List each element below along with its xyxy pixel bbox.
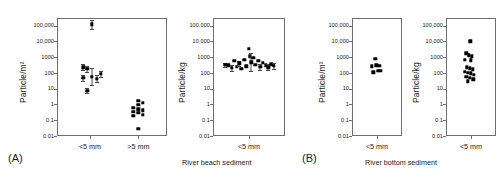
y-axis-tick-mark (443, 136, 446, 137)
y-axis-tick-mark (54, 26, 57, 27)
y-axis-tick-label: 0.01 (413, 133, 443, 139)
y-axis-tick-label: 0.01 (319, 133, 349, 139)
data-point (245, 65, 248, 68)
y-axis-tick-mark (349, 73, 352, 74)
data-point (141, 109, 144, 112)
error-bar-cap (90, 29, 94, 30)
data-point (233, 59, 236, 62)
y-axis-tick-label: 0.01 (24, 133, 54, 139)
y-axis-tick-mark (349, 26, 352, 27)
error-bar-cap (266, 70, 270, 71)
y-axis-tick-label: 1 (319, 101, 349, 107)
y-axis-tick-mark (443, 73, 446, 74)
y-axis-tick-mark (210, 26, 213, 27)
data-point (230, 66, 233, 69)
data-point (141, 101, 144, 104)
x-axis-category-label: <5 mm (65, 142, 115, 151)
y-axis-tick-mark (54, 89, 57, 90)
plot-frame (352, 18, 402, 136)
x-axis-tick-mark (138, 136, 139, 139)
y-axis-tick-mark (54, 120, 57, 121)
y-axis-tick-mark (443, 89, 446, 90)
caption-river-beach-sediment: River beach sediment (182, 158, 252, 167)
caption-river-bottom-sediment: River bottom sediment (365, 158, 437, 167)
y-axis-tick-label: 10 (180, 85, 210, 91)
data-point (247, 47, 250, 50)
y-axis-tick-mark (349, 89, 352, 90)
error-bar-cap (249, 71, 253, 72)
error-bar-cap (85, 93, 89, 94)
figure-root: Particle/m²100,00010,00010001001010.10.0… (0, 0, 499, 178)
y-axis-tick-label: 1 (180, 101, 210, 107)
y-axis-tick-label: 100,000 (319, 22, 349, 28)
y-axis-tick-mark (54, 136, 57, 137)
data-point (240, 67, 243, 70)
data-point (238, 62, 241, 65)
y-axis-tick-mark (54, 41, 57, 42)
plot-frame (57, 18, 167, 136)
y-axis-tick-mark (349, 57, 352, 58)
y-axis-tick-mark (210, 41, 213, 42)
data-point (242, 58, 245, 61)
error-bar-cap (81, 81, 85, 82)
y-axis-tick-mark (443, 41, 446, 42)
data-point (466, 79, 469, 82)
y-axis-tick-mark (210, 57, 213, 58)
y-axis-tick-label: 1 (413, 101, 443, 107)
x-axis-category-label: <5 mm (352, 142, 402, 151)
data-point (472, 77, 475, 80)
data-point (141, 113, 144, 116)
y-axis-tick-mark (210, 120, 213, 121)
y-axis-tick-mark (349, 104, 352, 105)
y-axis-tick-label: 10 (413, 85, 443, 91)
y-axis-tick-mark (54, 73, 57, 74)
y-axis-tick-label: 0.1 (319, 117, 349, 123)
panel-a-letter: (A) (8, 152, 23, 164)
y-axis-tick-label: 10 (24, 85, 54, 91)
y-axis-tick-label: 100,000 (413, 22, 443, 28)
data-point (90, 75, 93, 78)
data-point (254, 63, 257, 66)
data-point (259, 65, 262, 68)
y-axis-tick-label: 1000 (24, 54, 54, 60)
data-point (379, 69, 382, 72)
x-axis-tick-mark (471, 136, 472, 139)
y-axis-tick-label: 10,000 (180, 38, 210, 44)
y-axis-label: Particle/kg (177, 62, 187, 103)
x-axis-category-label: <5 mm (224, 142, 274, 151)
x-axis-tick-mark (377, 136, 378, 139)
data-point (378, 64, 381, 67)
data-point (137, 127, 140, 130)
y-axis-tick-label: 0.1 (413, 117, 443, 123)
panel-b-letter: (B) (302, 152, 317, 164)
data-point (249, 60, 252, 63)
data-point (131, 114, 134, 117)
data-point (131, 106, 134, 109)
data-point (82, 76, 85, 79)
y-axis-tick-mark (210, 104, 213, 105)
y-axis-label: Particle/m² (317, 61, 327, 103)
y-axis-tick-label: 1000 (319, 54, 349, 60)
data-point (373, 57, 376, 60)
data-point (469, 59, 472, 62)
y-axis-tick-mark (349, 41, 352, 42)
y-axis-tick-label: 0.1 (180, 117, 210, 123)
y-axis-tick-mark (443, 26, 446, 27)
y-axis-tick-label: 10 (319, 85, 349, 91)
data-point (471, 68, 474, 71)
data-point (252, 56, 255, 59)
y-axis-tick-label: 100 (319, 70, 349, 76)
y-axis-tick-mark (349, 120, 352, 121)
y-axis-tick-label: 0.1 (24, 117, 54, 123)
y-axis-tick-label: 0.01 (180, 133, 210, 139)
y-axis-label: Particle/m² (18, 61, 28, 103)
error-bar-cap (249, 53, 253, 54)
error-bar-cap (272, 69, 276, 70)
y-axis-tick-mark (443, 57, 446, 58)
data-point (470, 55, 473, 58)
data-point (372, 71, 375, 74)
data-point (272, 64, 275, 67)
y-axis-tick-label: 100 (180, 70, 210, 76)
data-point (99, 72, 102, 75)
error-bar-cap (90, 68, 94, 69)
